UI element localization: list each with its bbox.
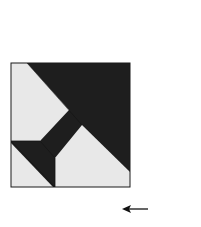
quilt-diagram xyxy=(0,0,201,227)
center-block xyxy=(11,63,130,187)
arrow-left-icon xyxy=(122,205,148,213)
